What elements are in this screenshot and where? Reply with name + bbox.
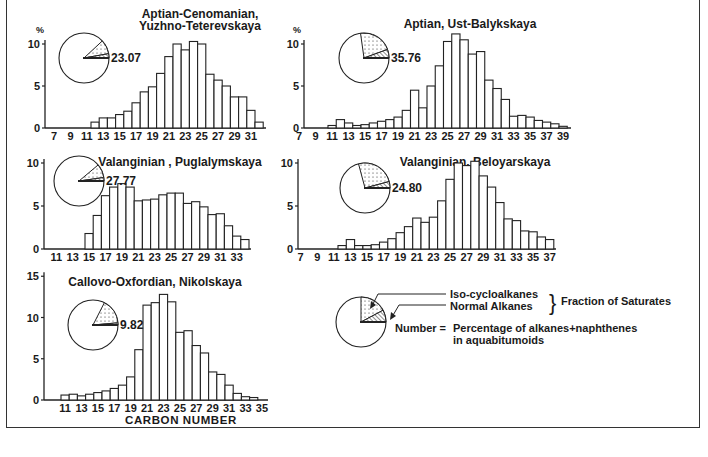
x-tick-label: 19	[116, 251, 128, 263]
x-tick-label: 37	[541, 130, 553, 142]
bar-c27	[460, 40, 468, 128]
x-tick-label: 33	[508, 130, 520, 142]
bar-c12	[336, 120, 344, 128]
bar-c29	[209, 372, 217, 400]
bar-c37	[546, 240, 554, 249]
x-tick-label: 31	[491, 130, 503, 142]
x-tick-label: 9	[313, 130, 319, 142]
x-tick-label: 37	[544, 251, 556, 263]
y-unit-label: %	[293, 25, 301, 35]
chart-title: Valanginian , Puglalymskaya	[98, 155, 262, 169]
bar-c13	[99, 118, 107, 128]
bar-c13	[345, 123, 353, 128]
bar-c32	[224, 226, 232, 249]
iso-arrow-icon	[372, 294, 446, 306]
pie-value-label: 35.76	[391, 51, 421, 65]
bar-c16	[93, 215, 101, 249]
legend-brace-label: Fraction of Saturates	[561, 295, 671, 307]
bar-c18	[386, 120, 394, 128]
legend-number-desc-2: in aquabitumoids	[453, 334, 544, 346]
bar-c32	[501, 99, 509, 128]
bar-c26	[206, 74, 214, 128]
legend-number-label: Number =	[395, 322, 446, 334]
figure-canvas: Aptian-Cenomanian,Yuzhno-Teterevskaya%05…	[0, 0, 708, 457]
bar-c33	[512, 221, 520, 249]
x-tick-label: 23	[425, 130, 437, 142]
x-tick-label: 23	[179, 130, 191, 142]
x-tick-label: 17	[99, 251, 111, 263]
bar-c15	[85, 234, 93, 249]
x-tick-label: 11	[59, 402, 71, 414]
bar-c17	[132, 103, 140, 128]
x-tick-label: 35	[527, 251, 539, 263]
y-tick-label: 10	[27, 157, 39, 169]
x-tick-label: 7	[51, 130, 57, 142]
x-tick-label: 17	[376, 130, 388, 142]
y-tick-label: 15	[27, 270, 39, 282]
bar-c22	[142, 200, 150, 249]
y-tick-label: 5	[34, 80, 40, 92]
bar-c34	[250, 398, 258, 400]
bar-c30	[485, 80, 493, 128]
bar-c26	[184, 331, 192, 400]
pie-value-label: 27.77	[106, 174, 136, 188]
bar-c15	[94, 393, 102, 400]
y-unit-label: %	[36, 25, 44, 35]
bar-c18	[110, 187, 118, 249]
bar-c34	[518, 115, 526, 128]
panel-callovo-oxfordian-nikolskaya: Callovo-Oxfordian, Nikolskaya05101511131…	[27, 270, 268, 414]
x-tick-label: 25	[442, 130, 454, 142]
bar-c19	[127, 377, 135, 400]
x-tick-label: 7	[298, 251, 304, 263]
saturates-pie-icon	[54, 156, 104, 206]
bar-c35	[526, 117, 534, 128]
x-tick-label: 13	[67, 251, 79, 263]
x-tick-label: 23	[149, 251, 161, 263]
bar-c28	[192, 202, 200, 249]
bar-c31	[247, 110, 255, 128]
x-tick-label: 7	[296, 130, 302, 142]
y-tick-label: 0	[33, 394, 39, 406]
chart-title: Callovo-Oxfordian, Nikolskaya	[68, 275, 242, 289]
bar-c29	[230, 97, 238, 128]
x-tick-label: 31	[223, 402, 235, 414]
bar-c32	[504, 219, 512, 249]
bar-c23	[427, 86, 435, 128]
bar-c18	[140, 92, 148, 128]
bar-c36	[537, 237, 545, 249]
bar-c15	[363, 246, 371, 249]
bar-c13	[346, 240, 354, 249]
bar-c26	[452, 34, 460, 128]
x-tick-label: 13	[75, 402, 87, 414]
bar-c12	[338, 246, 346, 249]
legend-iso-label: Iso-cycloalkanes	[450, 288, 538, 300]
legend-number-desc-1: Percentage of alkanes+naphthenes	[453, 322, 637, 334]
bar-c27	[214, 80, 222, 128]
bar-c24	[168, 302, 176, 400]
x-tick-label: 31	[245, 130, 257, 142]
x-tick-label: 27	[181, 251, 193, 263]
y-tick-label: 0	[33, 243, 39, 255]
x-tick-label: 27	[190, 402, 202, 414]
y-tick-label: 0	[34, 122, 40, 134]
bar-c11	[328, 125, 336, 128]
x-tick-label: 15	[114, 130, 126, 142]
bar-c27	[463, 166, 471, 249]
bar-c33	[233, 236, 241, 249]
bar-c20	[135, 350, 143, 400]
x-tick-label: 29	[475, 130, 487, 142]
bar-c22	[151, 303, 159, 400]
bar-c23	[159, 294, 167, 400]
bar-c32	[233, 393, 241, 400]
bar-c21	[134, 201, 142, 249]
bar-c34	[241, 240, 249, 249]
x-tick-label: 19	[146, 130, 158, 142]
bar-c25	[198, 44, 206, 128]
x-tick-label: 15	[359, 130, 371, 142]
x-tick-label: 15	[92, 402, 104, 414]
x-tick-label: 9	[314, 251, 320, 263]
bar-c39	[559, 126, 567, 128]
y-tick-label: 0	[287, 243, 293, 255]
x-tick-label: 35	[256, 402, 268, 414]
bar-c18	[388, 239, 396, 249]
